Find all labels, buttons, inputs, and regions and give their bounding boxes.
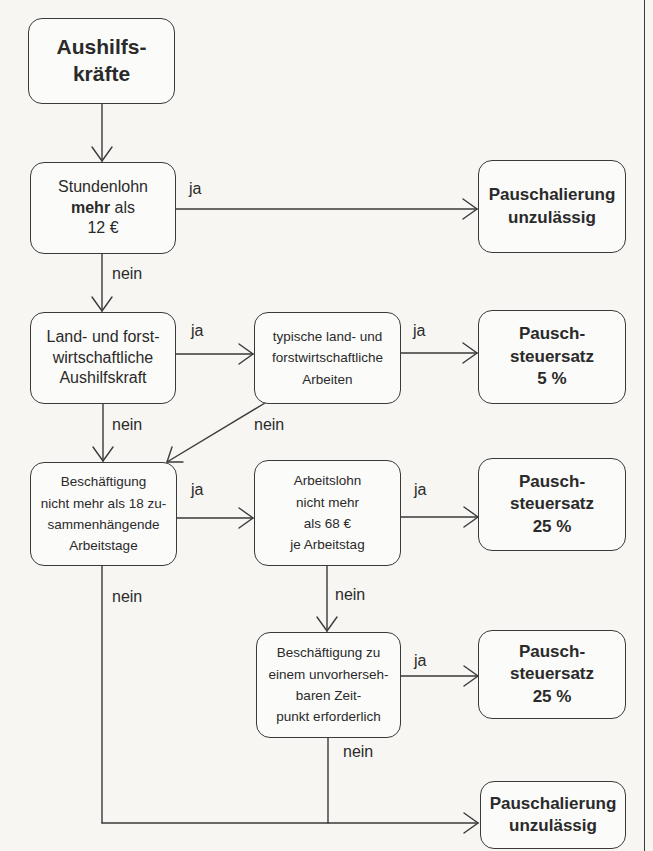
node-text: 25 % [533,686,572,708]
result-pauschalierung-unzulaessig-1: Pauschalierung unzulässig [478,160,626,253]
decision-unvorhersehbarer-zeitpunkt: Beschäftigung zu einem unvorherseh- bare… [256,632,401,738]
node-text: Beschäftigung [61,471,147,492]
node-text: punkt erforderlich [276,706,380,727]
node-text: steuersatz [510,493,594,515]
node-text: baren Zeit- [296,685,361,706]
edge-label-typical-ja: ja [413,322,425,340]
node-text: je Arbeitstag [290,534,364,555]
edge-label-typical-nein: nein [254,416,284,434]
edge-label-unforeseen-ja: ja [414,652,426,670]
edge-label-agri-ja: ja [191,322,203,340]
node-text-bold: mehr [71,199,110,216]
node-text: Beschäftigung zu [277,642,381,663]
edge-label-unforeseen-nein: nein [343,743,373,761]
edge-label-days-ja: ja [191,481,203,499]
node-text: kräfte [73,61,130,88]
result-pauschsteuersatz-25-b: Pausch- steuersatz 25 % [478,630,626,719]
node-text: Arbeiten [302,369,352,390]
node-text: Arbeitslohn [294,470,362,491]
edge-label-wage68-nein: nein [335,586,365,604]
result-pauschalierung-unzulaessig-2: Pauschalierung unzulässig [480,781,626,849]
node-text: Pausch- [519,471,585,493]
node-text: sammenhängende [48,514,160,535]
node-text: Pauschalierung [489,184,616,206]
node-text: steuersatz [510,346,594,368]
node-text: nicht mehr als 18 zu- [41,493,166,514]
decision-land-forst-aushilfskraft: Land- und forst- wirtschaftliche Aushilf… [30,312,176,404]
decision-arbeitslohn-68: Arbeitslohn nicht mehr als 68 € je Arbei… [254,460,401,566]
node-text: Arbeitstage [69,535,137,556]
node-text: unzulässig [509,815,597,837]
node-text: steuersatz [510,663,594,685]
node-text: nicht mehr [296,492,359,513]
node-text: Land- und forst- [47,327,160,348]
decision-typische-arbeiten: typische land- und forstwirtschaftliche … [254,312,401,404]
node-text: wirtschaftliche [53,348,153,369]
node-aushilfskraefte: Aushilfs- kräfte [28,18,175,104]
edge-label-hourly-nein: nein [112,265,142,283]
node-text: 5 % [537,368,566,390]
edge-label-wage68-ja: ja [414,481,426,499]
node-text: typische land- und [273,326,383,347]
node-text: Aushilfskraft [59,368,146,389]
node-text: 25 % [533,516,572,538]
node-text: mehr als [71,198,135,219]
node-text: als 68 € [304,513,351,534]
node-text: 12 € [87,218,118,239]
node-text: unzulässig [508,207,596,229]
node-text: Pausch- [519,641,585,663]
node-text: forstwirtschaftliche [272,347,383,368]
node-text: Stundenlohn [58,177,148,198]
decision-max-18-arbeitstage: Beschäftigung nicht mehr als 18 zu- samm… [30,462,177,566]
edge-label-agri-nein: nein [112,416,142,434]
node-text: einem unvorherseh- [268,664,388,685]
node-text: Aushilfs- [57,34,147,61]
edge-label-hourly-ja: ja [189,180,201,198]
node-text: als [110,199,135,216]
edge-label-days-nein: nein [112,588,142,606]
node-text: Pausch- [519,323,585,345]
node-text: Pauschalierung [490,793,617,815]
decision-stundenlohn: Stundenlohn mehr als 12 € [30,162,176,254]
result-pauschsteuersatz-5: Pausch- steuersatz 5 % [478,310,626,404]
result-pauschsteuersatz-25-a: Pausch- steuersatz 25 % [478,458,626,551]
